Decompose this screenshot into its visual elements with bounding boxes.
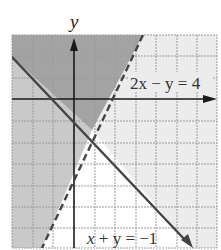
line2-label-rest: + y = −1	[95, 229, 158, 248]
line1-label-text: 2x − y = 4	[130, 74, 201, 93]
line1-label: 2x − y = 4	[130, 74, 201, 93]
y-axis-label: y	[68, 11, 79, 32]
line2-label: x + y = −1	[86, 229, 157, 248]
inequality-graph: y 2x − y = 4 x + y = −1	[0, 0, 221, 250]
